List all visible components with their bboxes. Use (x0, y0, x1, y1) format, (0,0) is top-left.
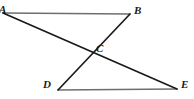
vertex-label-d: D (43, 79, 51, 90)
segment-DE (58, 89, 177, 90)
segment-AE (3, 13, 177, 89)
vertex-label-c: C (96, 43, 103, 54)
geometry-figure: A B C D E (0, 0, 194, 99)
segment-AB (3, 13, 130, 14)
segments-group (3, 13, 177, 90)
vertex-label-a: A (0, 4, 6, 15)
segment-BD (58, 14, 130, 90)
vertex-label-e: E (181, 79, 188, 90)
vertex-label-b: B (134, 5, 141, 16)
